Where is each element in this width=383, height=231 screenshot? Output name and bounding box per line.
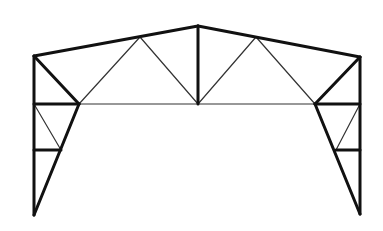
web-member-left_top_node-to-center_bottom: [140, 37, 198, 104]
frame-member-left_knee-to-left_base: [34, 104, 79, 215]
frame-member-right_knee-to-right_base: [315, 104, 360, 214]
frame-member-left_eave_top-to-left_knee: [34, 56, 79, 104]
truss-diagram: [0, 0, 383, 231]
frame-member-left_eave_top-to-apex: [34, 26, 198, 56]
frame-members: [34, 26, 360, 215]
portal-frame-truss-drawing: [0, 0, 383, 231]
web-member-center_bottom-to-right_top_node: [198, 37, 256, 104]
frame-member-apex-to-right_eave_top: [198, 26, 360, 57]
frame-member-right_eave_top-to-right_knee: [315, 57, 360, 104]
web-member-left_eave_chord-to-left_strut: [34, 104, 61, 150]
web-member-right_eave_chord-to-right_strut: [336, 104, 360, 150]
